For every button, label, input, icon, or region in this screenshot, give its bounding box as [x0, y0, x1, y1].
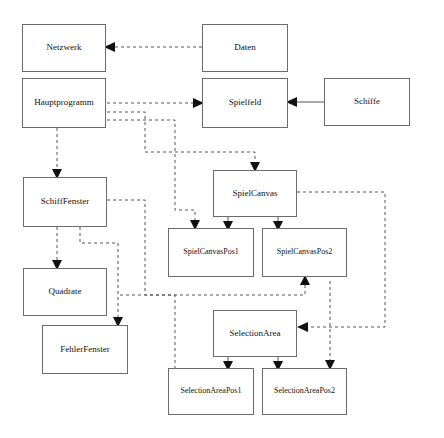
node-label-quadrate: Quadrate — [47, 287, 84, 297]
edge-right-rail-to-selectionareapos2 — [325, 281, 335, 370]
node-daten[interactable]: Daten — [202, 24, 288, 72]
node-label-spielcanvaspos2: SpielCanvasPos2 — [275, 248, 335, 257]
edge-schifffenster-to-quadrate — [52, 227, 62, 270]
node-quadrate[interactable]: Quadrate — [23, 268, 107, 316]
node-label-selectionareapos2: SelectionAreaPos2 — [272, 387, 337, 396]
node-label-spielcanvaspos1: SpielCanvasPos1 — [181, 248, 241, 257]
arrowhead-icon — [297, 322, 308, 332]
edge-daten-to-netzwerk — [104, 42, 202, 52]
node-label-selectionarea: SelectionArea — [228, 329, 283, 339]
node-schiffe[interactable]: Schiffe — [324, 78, 410, 126]
node-label-selectionareapos1: SelectionAreaPos1 — [179, 387, 244, 396]
node-selectionareapos1[interactable]: SelectionAreaPos1 — [168, 368, 254, 415]
node-spielcanvas[interactable]: SpielCanvas — [213, 170, 297, 217]
node-selectionareapos2[interactable]: SelectionAreaPos2 — [262, 368, 347, 415]
node-label-spielcanvas: SpielCanvas — [231, 189, 280, 199]
node-schifffenster[interactable]: SchiffFenster — [23, 177, 107, 227]
node-label-hauptprogramm: Hauptprogramm — [32, 98, 95, 108]
edge-schiffe-to-spielfeld — [286, 97, 324, 107]
node-label-spielfeld: Spielfeld — [227, 98, 264, 108]
node-label-schifffenster: SchiffFenster — [39, 197, 91, 207]
node-spielcanvaspos2[interactable]: SpielCanvasPos2 — [262, 228, 347, 277]
node-label-fehlerfenster: FehlerFenster — [58, 345, 112, 355]
node-spielcanvaspos1[interactable]: SpielCanvasPos1 — [168, 228, 254, 277]
node-label-daten: Daten — [232, 43, 258, 53]
node-label-schiffe: Schiffe — [352, 97, 382, 107]
edge-hauptprogramm-to-spielcanvaspos1 — [107, 120, 200, 230]
node-hauptprogramm[interactable]: Hauptprogramm — [22, 78, 106, 128]
edge-hauptprogramm-to-spielfeld — [107, 98, 204, 108]
node-label-netzwerk: Netzwerk — [45, 43, 84, 53]
node-spielfeld[interactable]: Spielfeld — [202, 78, 288, 128]
node-netzwerk[interactable]: Netzwerk — [22, 24, 106, 72]
edge-selectionarea-to-spielcanvaspos2 — [120, 275, 310, 295]
node-fehlerfenster[interactable]: FehlerFenster — [42, 325, 128, 374]
class-diagram: NetzwerkDatenHauptprogrammSpielfeldSchif… — [0, 0, 444, 438]
node-selectionarea[interactable]: SelectionArea — [213, 310, 297, 357]
edge-hauptprogramm-to-schifffenster — [52, 128, 62, 179]
